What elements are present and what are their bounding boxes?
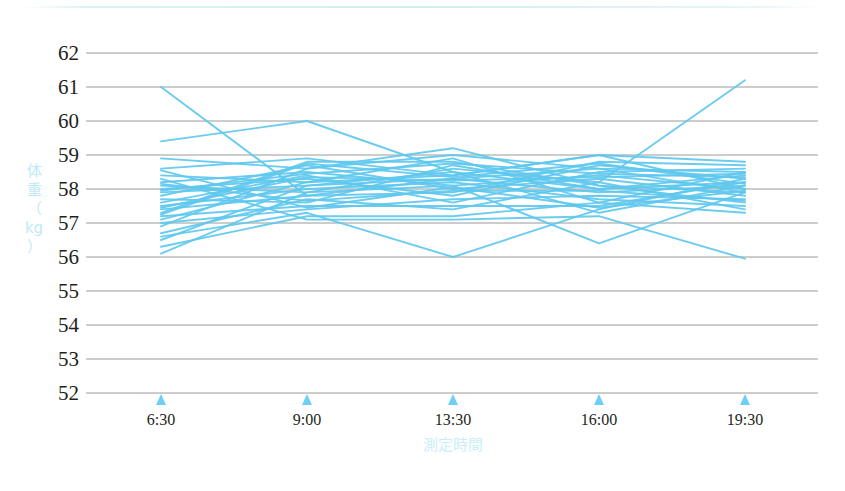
y-axis-tick-label: 56 <box>58 245 79 269</box>
y-axis-tick-label: 57 <box>58 211 79 235</box>
gridline-group <box>86 53 818 393</box>
x-axis-tick-label: 16:00 <box>581 411 617 428</box>
y-axis-tick-label: 55 <box>58 279 79 303</box>
x-axis-tick-label: 13:30 <box>435 411 471 428</box>
x-tick-triangle-icon <box>302 394 312 405</box>
x-axis-tick-label: 6:30 <box>147 411 175 428</box>
y-axis-title: 体重（kg） <box>25 162 43 256</box>
y-axis-title-char: ） <box>27 238 42 256</box>
x-axis-tick-markers <box>156 394 750 405</box>
x-tick-triangle-icon <box>594 394 604 405</box>
y-axis-tick-label: 62 <box>58 41 79 65</box>
x-tick-triangle-icon <box>740 394 750 405</box>
x-axis-tick-label: 9:00 <box>293 411 321 428</box>
chart-plot-area: 6261605958575655545352 6:309:0013:3016:0… <box>0 0 845 491</box>
y-axis-title-char: （ <box>27 200 42 218</box>
y-axis-tick-label: 53 <box>58 347 79 371</box>
x-tick-triangle-icon <box>448 394 458 405</box>
y-axis-tick-label: 59 <box>58 143 79 167</box>
y-axis-tick-label: 61 <box>58 75 79 99</box>
y-axis-tick-label: 54 <box>58 313 80 337</box>
x-axis-title: 測定時間 <box>423 436 483 454</box>
data-series-group <box>161 80 745 259</box>
weight-line-chart: 6261605958575655545352 6:309:0013:3016:0… <box>0 0 845 491</box>
y-axis-tick-labels: 6261605958575655545352 <box>58 41 80 405</box>
x-tick-triangle-icon <box>156 394 166 405</box>
y-axis-title-char: 重 <box>27 181 42 199</box>
x-axis-tick-labels: 6:309:0013:3016:0019:30 <box>147 411 763 428</box>
y-axis-tick-label: 52 <box>58 381 79 405</box>
x-axis-tick-label: 19:30 <box>727 411 763 428</box>
y-axis-tick-label: 60 <box>58 109 79 133</box>
y-axis-tick-label: 58 <box>58 177 79 201</box>
y-axis-title-char: 体 <box>27 162 42 180</box>
y-axis-title-char: kg <box>25 219 43 237</box>
